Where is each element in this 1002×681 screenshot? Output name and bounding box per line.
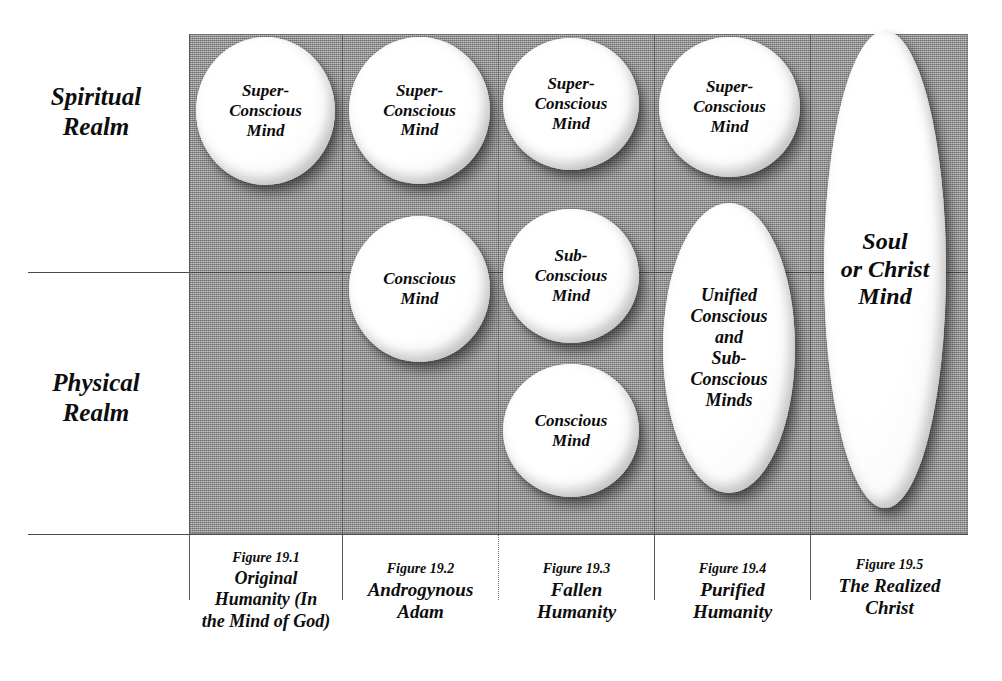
shape-label: Super- Conscious Mind xyxy=(529,74,614,133)
column-divider-2 xyxy=(342,34,343,600)
diagram-canvas: Spiritual Realm Physical Realm Super- Co… xyxy=(0,0,1002,681)
figure-number: Figure 19.2 xyxy=(343,560,498,578)
shape-col5-soul-or-christ-mind[interactable]: Soul or Christ Mind xyxy=(824,31,946,508)
figure-title: Purified Humanity xyxy=(655,579,810,625)
shape-col4-super-conscious-mind[interactable]: Super- Conscious Mind xyxy=(659,37,800,177)
caption-col-3: Figure 19.3 Fallen Humanity xyxy=(499,560,654,624)
shape-col3-conscious-mind[interactable]: Conscious Mind xyxy=(503,364,639,497)
shape-col4-unified-minds[interactable]: Unified Conscious and Sub- Conscious Min… xyxy=(663,203,795,493)
caption-col-2: Figure 19.2 Androgynous Adam xyxy=(343,560,498,624)
column-divider-4 xyxy=(654,34,655,600)
figure-title: The Realized Christ xyxy=(811,575,968,621)
shape-label: Super- Conscious Mind xyxy=(687,77,772,136)
row-label-spiritual-realm: Spiritual Realm xyxy=(6,82,186,141)
column-divider-5 xyxy=(810,34,811,600)
shape-col2-conscious-mind[interactable]: Conscious Mind xyxy=(349,216,490,362)
column-divider-1 xyxy=(189,34,190,600)
caption-col-5: Figure 19.5 The Realized Christ xyxy=(811,556,968,620)
figure-title: Original Humanity (In the Mind of God) xyxy=(190,568,342,633)
figure-number: Figure 19.5 xyxy=(811,556,968,574)
shape-label: Unified Conscious and Sub- Conscious Min… xyxy=(684,285,773,410)
shape-col1-super-conscious-mind[interactable]: Super- Conscious Mind xyxy=(196,37,335,185)
figure-title: Fallen Humanity xyxy=(499,579,654,625)
shape-label: Conscious Mind xyxy=(377,269,462,308)
caption-col-4: Figure 19.4 Purified Humanity xyxy=(655,560,810,624)
column-divider-3 xyxy=(498,34,499,600)
caption-col-1: Figure 19.1 Original Humanity (In the Mi… xyxy=(190,549,342,632)
shape-label: Super- Conscious Mind xyxy=(377,81,462,140)
row-label-physical-realm: Physical Realm xyxy=(6,368,186,427)
shape-label: Conscious Mind xyxy=(529,411,614,450)
shape-col3-super-conscious-mind[interactable]: Super- Conscious Mind xyxy=(503,38,639,170)
figure-number: Figure 19.4 xyxy=(655,560,810,578)
figure-number: Figure 19.1 xyxy=(190,549,342,567)
shape-label: Soul or Christ Mind xyxy=(835,228,936,311)
shape-col2-super-conscious-mind[interactable]: Super- Conscious Mind xyxy=(349,37,490,184)
shape-col3-sub-conscious-mind[interactable]: Sub- Conscious Mind xyxy=(503,209,639,343)
figure-number: Figure 19.3 xyxy=(499,560,654,578)
shape-label: Super- Conscious Mind xyxy=(223,81,308,140)
shape-label: Sub- Conscious Mind xyxy=(529,246,614,305)
figure-title: Androgynous Adam xyxy=(343,579,498,625)
